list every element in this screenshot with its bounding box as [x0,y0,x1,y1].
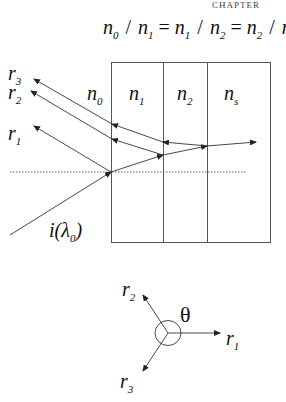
incident-label: i(λ0) [49,219,82,244]
layer-label-n1: n1 [129,82,145,107]
phasor-r3 [143,333,168,371]
layer-label-n0: n0 [87,82,103,107]
layer-label-n2: n2 [177,82,193,107]
transmitted-ray [207,142,256,146]
refracted-ray-2 [163,146,207,155]
phasor-r2 [143,295,168,333]
reflected-ray-r1 [34,126,111,172]
phasor-label-r3: r3 [120,370,134,395]
internal-reflect-r3b [112,124,163,142]
internal-reflect-r3a [163,142,207,146]
phasor-label-r1: r1 [226,327,239,352]
theta-label: θ [180,302,191,327]
phasor-label-r2: r2 [122,278,136,303]
internal-reflect-r2 [112,139,163,155]
thin-film-diagram: CHAPTER n0 / n1 = n1 / n2 = n2 / ns n0 n… [0,0,286,402]
layer-label-ns: ns [224,82,238,107]
refracted-ray-1 [111,155,163,172]
equation: n0 / n1 = n1 / n2 = n2 / ns [103,16,286,43]
svg-text:n0 / n1 =: n0 / n1 = n1 / n2 = n2 / ns [103,16,286,43]
chapter-header: CHAPTER [212,0,260,10]
ray-label-r1: r1 [8,122,21,147]
